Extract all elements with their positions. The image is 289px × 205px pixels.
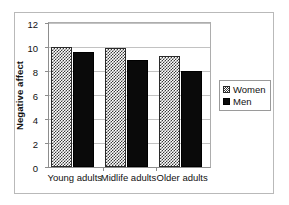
x-axis-category-label: Older adults [157,172,208,183]
y-axis-tick-label: 8 [33,67,38,78]
y-axis-tick: 0 [45,167,49,168]
y-axis-tick: 4 [45,119,49,120]
legend-item-women[interactable]: Women [223,83,266,95]
x-axis-tick [103,167,104,171]
bar-women-young-adults [51,47,72,167]
bar-men-young-adults [73,52,94,167]
gridline-y [49,23,210,24]
legend-swatch-women-icon [223,86,230,93]
legend-label-women: Women [233,84,266,95]
y-axis-tick-label: 12 [27,19,38,30]
bar-men-midlife-adults [127,60,148,167]
y-axis-tick-label: 2 [33,139,38,150]
y-axis-tick-label: 10 [27,43,38,54]
y-axis-tick: 10 [45,47,49,48]
x-axis-labels: Young adultsMidlife adultsOlder adults [48,172,211,188]
y-axis-title-label: Negative affect [15,60,26,129]
plot-area: 024681012 [48,22,211,168]
y-axis-tick-label: 4 [33,115,38,126]
gridline-y [49,47,210,48]
y-axis-tick: 8 [45,71,49,72]
y-axis-tick: 2 [45,143,49,144]
y-axis-tick-label: 6 [33,91,38,102]
y-axis-title: Negative affect [12,36,28,154]
y-axis-tick: 12 [45,23,49,24]
bar-women-older-adults [159,56,180,167]
x-axis-tick [156,167,157,171]
y-axis-tick: 6 [45,95,49,96]
legend-item-men[interactable]: Men [223,95,266,107]
bar-men-older-adults [181,71,202,167]
chart-legend: Women Men [219,80,271,111]
legend-label-men: Men [233,96,251,107]
x-axis-category-label: Young adults [48,172,103,183]
legend-swatch-men-icon [223,98,230,105]
y-axis-tick-label: 0 [33,163,38,174]
chart-figure: Negative affect 024681012 Young adultsMi… [0,0,289,205]
x-axis-category-label: Midlife adults [101,172,156,183]
bar-women-midlife-adults [105,48,126,167]
